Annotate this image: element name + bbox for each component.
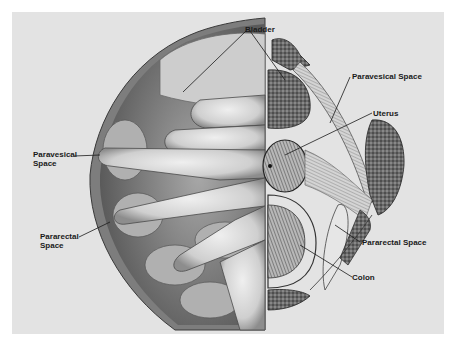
label-pararectal-space-right: Pararectal Space bbox=[362, 238, 427, 247]
pelvic-anatomy-illustration bbox=[0, 0, 456, 345]
surgical-view bbox=[90, 18, 265, 330]
label-paravesical-space-left: Paravesical Space bbox=[33, 150, 77, 168]
label-bladder: Bladder bbox=[245, 25, 275, 34]
label-pararectal-space-left: Pararectal Space bbox=[40, 232, 79, 250]
label-paravesical-space-right: Paravesical Space bbox=[352, 72, 422, 81]
label-uterus: Uterus bbox=[373, 109, 398, 118]
label-colon: Colon bbox=[352, 273, 375, 282]
